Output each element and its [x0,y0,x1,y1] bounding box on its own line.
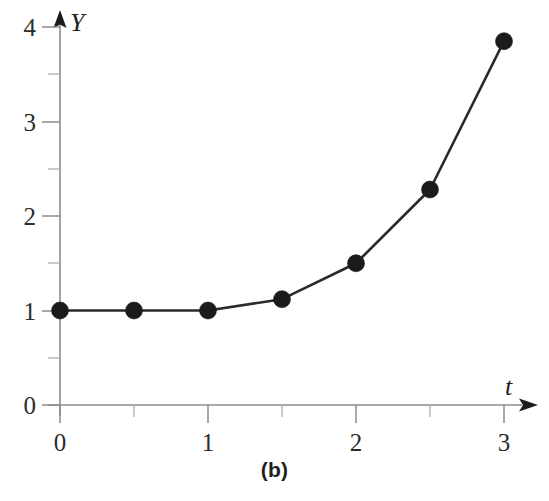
data-point [496,33,513,50]
y-tick-label-4: 4 [24,15,37,40]
data-point [422,181,439,198]
data-point [274,291,291,308]
data-series-group [52,33,513,319]
axes-group [48,10,538,416]
y-axis-label: Y [70,10,84,36]
x-tick-label-3: 3 [498,430,511,455]
y-axis-ticks [42,27,60,405]
data-point [200,302,217,319]
y-tick-label-3: 3 [24,110,37,135]
x-axis-label: t [505,374,512,400]
x-axis-ticks [60,405,504,423]
y-tick-label-0: 0 [24,393,37,418]
data-line-path [60,41,504,310]
figure-panel-b: 4 3 2 1 0 0 1 2 3 Y t (b) [0,0,549,501]
data-point [348,255,365,272]
data-point [52,302,69,319]
y-tick-label-1: 1 [24,299,37,324]
data-point [126,302,143,319]
y-tick-label-2: 2 [24,204,37,229]
x-tick-label-2: 2 [350,430,363,455]
x-tick-label-1: 1 [202,430,215,455]
figure-caption: (b) [0,458,549,482]
line-chart-canvas [0,0,549,501]
x-tick-label-0: 0 [54,430,67,455]
